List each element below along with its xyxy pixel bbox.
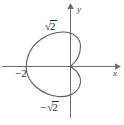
radicand-value: 2 <box>52 101 59 114</box>
cardioid-figure: x y √2 −√2 −2 <box>0 0 124 125</box>
label-neg-2: −2 <box>15 68 27 79</box>
label-sqrt2-top: √2 <box>44 20 57 33</box>
y-axis-arrowhead <box>67 3 74 9</box>
radicand-value: 2 <box>50 20 57 33</box>
x-axis-label: x <box>112 68 117 78</box>
radical-symbol-group: √2 <box>44 20 57 33</box>
radical-expression: √2 <box>44 20 57 33</box>
y-axis <box>67 3 74 118</box>
cardioid-curve <box>26 32 80 97</box>
y-axis-label: y <box>76 4 81 14</box>
plot-canvas: x y <box>0 0 124 125</box>
label-neg-sqrt2-bottom: −√2 <box>40 101 59 114</box>
cardioid-path <box>26 32 80 97</box>
radical-expression: −√2 <box>40 101 59 114</box>
radical-symbol-group: √2 <box>46 101 59 114</box>
